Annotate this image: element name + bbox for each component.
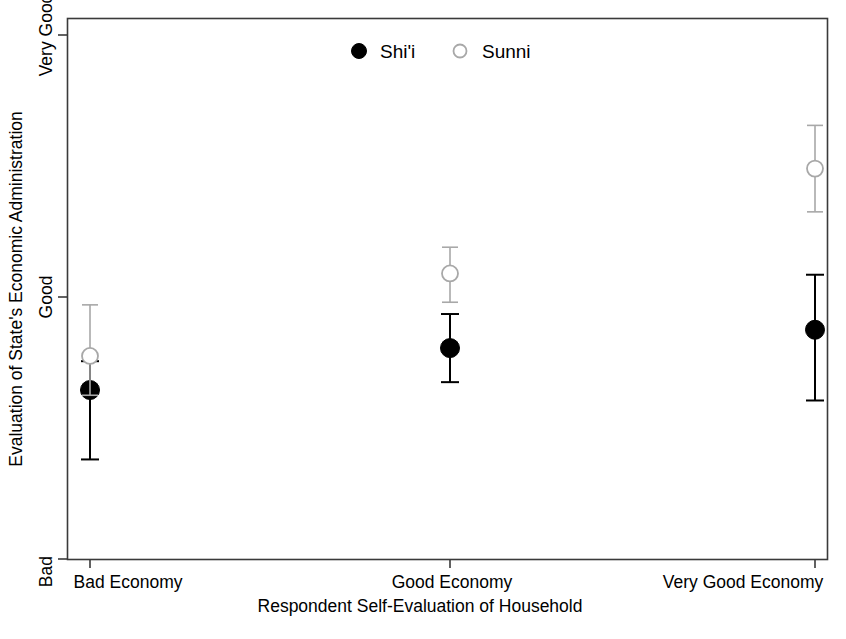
marker-filled-circle — [806, 320, 825, 339]
legend-marker-shii — [352, 44, 367, 59]
datapoint-sunni-bad-economy — [82, 305, 98, 395]
marker-filled-circle — [441, 339, 460, 358]
datapoint-shii-good-economy — [441, 314, 460, 382]
data-points-layer — [81, 125, 825, 459]
datapoint-sunni-good-economy — [442, 247, 458, 302]
y-axis-ticks — [58, 35, 68, 559]
x-axis-ticks — [90, 559, 815, 568]
x-tick-label-bad-economy: Bad Economy — [74, 572, 183, 592]
legend-marker-sunni — [454, 45, 467, 58]
y-tick-label-bad: Bad — [36, 556, 56, 587]
plot-frame — [68, 19, 828, 560]
legend-label-shii: Shi'i — [380, 41, 415, 62]
y-tick-label-good: Good — [36, 276, 56, 319]
datapoint-shii-very-good-economy — [806, 275, 825, 401]
legend-label-sunni: Sunni — [482, 41, 531, 62]
datapoint-sunni-very-good-economy — [807, 125, 823, 211]
y-axis-title: Evaluation of State's Economic Administr… — [6, 111, 26, 466]
legend: Shi'i Sunni — [352, 41, 531, 62]
marker-open-circle — [807, 161, 823, 177]
x-tick-label-good-economy: Good Economy — [392, 572, 513, 592]
economic-evaluation-scatter-plot: Very Good Good Bad Evaluation of State's… — [0, 0, 846, 639]
marker-open-circle — [442, 265, 458, 281]
chart-figure: Very Good Good Bad Evaluation of State's… — [0, 0, 846, 639]
y-tick-label-very-good: Very Good — [36, 0, 56, 76]
x-axis-title: Respondent Self-Evaluation of Household — [258, 596, 583, 616]
x-tick-label-very-good-economy: Very Good Economy — [663, 572, 824, 592]
marker-open-circle — [82, 348, 98, 364]
